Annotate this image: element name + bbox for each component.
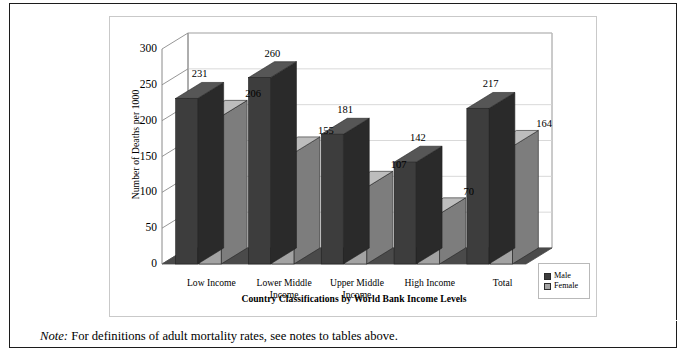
- y-axis-tick-label: 150: [140, 151, 157, 163]
- figure-note: Note: For definitions of adult mortality…: [40, 330, 660, 343]
- bar-value-label: 70: [464, 187, 475, 198]
- legend-swatch-icon: [544, 283, 551, 290]
- bar-value-label: 155: [318, 126, 334, 137]
- y-axis-tick-label: 50: [146, 222, 158, 234]
- bar-value-label: 142: [410, 133, 426, 144]
- bar-value-label: 107: [391, 160, 407, 171]
- bar-value-label: 164: [536, 119, 552, 130]
- bar-chart-plot: 050100150200250300 Number of Deaths per …: [110, 17, 598, 318]
- legend-item: Male: [544, 272, 584, 280]
- bar-value-label: 181: [337, 105, 353, 116]
- bar-value-label: 217: [483, 79, 499, 90]
- y-axis-title: Number of Deaths per 1000: [130, 60, 141, 230]
- figure-page: 050100150200250300 Number of Deaths per …: [0, 0, 684, 358]
- legend-label: Female: [554, 282, 578, 290]
- y-axis-tick-label: 200: [140, 115, 157, 127]
- x-axis-title: Country Classifications by World Bank In…: [110, 293, 598, 304]
- note-text: For definitions of adult mortality rates…: [71, 329, 398, 343]
- legend-swatch-icon: [544, 273, 551, 280]
- note-separator: [20, 320, 684, 321]
- y-axis-tick-label: 300: [140, 43, 157, 55]
- bar-value-label: 206: [245, 89, 261, 100]
- figure-outer-frame: 050100150200250300 Number of Deaths per …: [9, 3, 677, 348]
- chart-frame: 050100150200250300 Number of Deaths per …: [109, 16, 597, 317]
- note-label: Note:: [40, 329, 68, 343]
- legend-item: Female: [544, 282, 584, 290]
- bar-value-label: 260: [264, 49, 280, 60]
- chart-legend: MaleFemale: [538, 263, 590, 299]
- bar-value-label: 231: [192, 69, 208, 80]
- x-axis-category-label: Total: [460, 277, 546, 289]
- y-axis-tick-label: 100: [140, 187, 157, 199]
- legend-label: Male: [554, 272, 571, 280]
- y-axis-tick-label: 250: [140, 79, 157, 91]
